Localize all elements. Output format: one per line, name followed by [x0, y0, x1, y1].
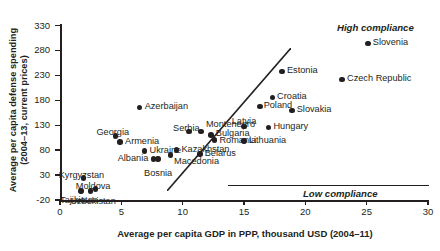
data-point[interactable]: [155, 156, 160, 161]
data-point[interactable]: [279, 69, 284, 74]
data-point[interactable]: [289, 108, 294, 113]
y-tick-mark: [55, 100, 60, 101]
x-axis-title: Average per capita GDP in PPP, thousand …: [60, 228, 430, 239]
y-tick-label: 330: [22, 21, 50, 31]
data-point-label: Slovenia: [373, 39, 408, 49]
data-point[interactable]: [198, 129, 203, 134]
data-point-label: Croatia: [277, 92, 307, 102]
data-point[interactable]: [212, 137, 217, 142]
x-tick-label: 20: [290, 207, 320, 217]
data-point[interactable]: [197, 151, 202, 156]
data-point-label: Albania: [118, 154, 149, 164]
x-tick-mark: [366, 200, 367, 205]
data-point[interactable]: [257, 104, 262, 109]
data-point-label: Georgia: [96, 128, 129, 138]
y-tick-label: 180: [22, 95, 50, 105]
data-point-label: Latvia: [232, 117, 257, 127]
x-tick-mark: [121, 200, 122, 205]
x-tick-label: 10: [168, 207, 198, 217]
data-point-label: Uzbekistan: [70, 197, 115, 207]
plot-area: High compliance Low compliance Average p…: [0, 0, 440, 251]
y-tick-mark: [55, 149, 60, 150]
y-tick-label: 280: [22, 45, 50, 55]
x-tick-label: 30: [413, 207, 440, 217]
x-tick-mark: [243, 200, 244, 205]
x-tick-label: 0: [45, 207, 75, 217]
x-tick-label: 5: [106, 207, 136, 217]
x-tick-mark: [427, 200, 428, 205]
x-tick-label: 15: [229, 207, 259, 217]
data-point-label: Estonia: [287, 67, 318, 77]
y-tick-label: -20: [22, 195, 50, 205]
data-point-label: Moldova: [76, 182, 111, 192]
x-tick-mark: [305, 200, 306, 205]
data-point[interactable]: [117, 139, 122, 144]
y-tick-mark: [55, 75, 60, 76]
data-point[interactable]: [241, 138, 246, 143]
y-tick-mark: [55, 50, 60, 51]
data-point-label: Czech Republic: [347, 75, 411, 85]
y-tick-mark: [55, 125, 60, 126]
data-point-label: Poland: [264, 101, 293, 111]
y-tick-label: 30: [22, 170, 50, 180]
data-point-label: Slovakia: [297, 105, 332, 115]
data-point[interactable]: [266, 125, 271, 130]
y-tick-label: 80: [22, 145, 50, 155]
data-point[interactable]: [137, 105, 142, 110]
data-point-label: Hungary: [273, 122, 308, 132]
data-point-label: Bosnia: [144, 169, 172, 179]
data-point[interactable]: [174, 147, 179, 152]
data-point-label: Belarus: [205, 149, 236, 159]
y-tick-label: 230: [22, 70, 50, 80]
data-point-label: Azerbaijan: [145, 102, 188, 112]
data-point-label: Kyrgyzstan: [59, 171, 104, 181]
y-tick-label: 130: [22, 120, 50, 130]
x-tick-mark: [182, 200, 183, 205]
high-compliance-label: High compliance: [337, 22, 414, 33]
scatter-chart: High compliance Low compliance Average p…: [0, 0, 440, 251]
data-point-label: Serbia: [173, 124, 200, 134]
data-point-label: Lithuania: [249, 136, 286, 146]
data-point[interactable]: [168, 152, 173, 157]
data-point[interactable]: [339, 77, 344, 82]
low-compliance-label: Low compliance: [303, 188, 378, 199]
low-compliance-boundary-line: [228, 185, 429, 186]
data-point[interactable]: [365, 41, 370, 46]
y-tick-mark: [55, 25, 60, 26]
x-tick-label: 25: [352, 207, 382, 217]
data-point[interactable]: [270, 95, 275, 100]
